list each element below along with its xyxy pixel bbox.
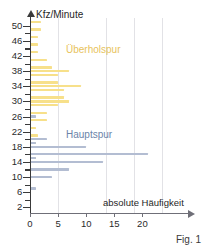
bar-ueberholspur-39 (30, 66, 52, 68)
y-tick-22 (23, 132, 30, 133)
x-tick-0 (30, 213, 31, 217)
bar-ueberholspur-51 (30, 21, 41, 23)
y-tick-label-30: 30 (12, 95, 22, 106)
series-label-hauptspur: Hauptspur (66, 129, 112, 140)
y-tick-14 (23, 162, 30, 163)
figure-caption: Fig. 1 (176, 234, 201, 245)
bar-ueberholspur-37 (30, 74, 58, 76)
y-tick-28 (25, 109, 30, 110)
bar-ueberholspur-41 (30, 59, 47, 61)
y-tick-label-10: 10 (12, 171, 22, 182)
y-tick-6 (23, 192, 30, 193)
y-tick-label-26: 26 (12, 111, 22, 122)
y-tick-18 (23, 147, 30, 148)
y-tick-4 (25, 200, 30, 201)
y-tick-20 (25, 139, 30, 140)
bar-hauptspur-10 (30, 176, 52, 178)
y-tick-8 (25, 185, 30, 186)
x-tick-label-20: 20 (137, 218, 148, 229)
y-tick-46 (23, 41, 30, 42)
bar-ueberholspur-34 (30, 85, 81, 87)
bar-hauptspur-16 (30, 153, 148, 155)
bar-hauptspur-14 (30, 161, 103, 163)
y-tick-12 (25, 169, 30, 170)
y-tick-label-50: 50 (12, 20, 22, 31)
bar-ueberholspur-45 (30, 43, 38, 45)
y-axis-title: Kfz/Minute (36, 9, 83, 20)
y-tick-10 (23, 177, 30, 178)
y-tick-50 (23, 26, 30, 27)
bar-ueberholspur-33 (30, 89, 64, 91)
bar-ueberholspur-21 (30, 134, 38, 136)
y-axis-arrow-icon (27, 10, 35, 17)
y-tick-label-38: 38 (12, 65, 22, 76)
y-tick-42 (23, 56, 30, 57)
y-tick-30 (23, 101, 30, 102)
plot-area: 261014182226303438424650 05101520 Kfz/Mi… (0, 0, 205, 248)
gridline-x-15 (134, 18, 135, 213)
bar-ueberholspur-31 (30, 96, 64, 98)
bar-ueberholspur-47 (30, 36, 38, 38)
y-tick-2 (23, 207, 30, 208)
y-tick-label-6: 6 (17, 186, 22, 197)
bar-hauptspur-20 (30, 138, 47, 140)
bar-hauptspur-18 (30, 146, 86, 148)
y-tick-label-42: 42 (12, 50, 22, 61)
y-tick-label-2: 2 (17, 201, 22, 212)
y-tick-label-22: 22 (12, 126, 22, 137)
bar-ueberholspur-35 (30, 81, 58, 83)
chart-figure: 261014182226303438424650 05101520 Kfz/Mi… (0, 0, 205, 248)
bar-ueberholspur-49 (30, 28, 41, 30)
y-tick-label-14: 14 (12, 156, 22, 167)
bar-ueberholspur-38 (30, 70, 69, 72)
y-tick-36 (25, 79, 30, 80)
bar-hauptspur-12 (30, 168, 69, 170)
x-tick-label-5: 5 (55, 218, 60, 229)
x-tick-label-15: 15 (109, 218, 120, 229)
y-tick-38 (23, 71, 30, 72)
y-tick-label-18: 18 (12, 141, 22, 152)
y-tick-40 (25, 64, 30, 65)
x-tick-20 (142, 213, 143, 217)
bar-ueberholspur-43 (30, 51, 38, 53)
x-tick-5 (58, 213, 59, 217)
x-axis-title: absolute Häufigkeit (103, 197, 184, 208)
y-tick-32 (25, 94, 30, 95)
y-axis-line (30, 16, 31, 214)
x-tick-label-10: 10 (81, 218, 92, 229)
y-tick-44 (25, 48, 30, 49)
bar-ueberholspur-29 (30, 104, 58, 106)
gridline-x-20 (162, 18, 163, 213)
y-tick-label-46: 46 (12, 35, 22, 46)
x-tick-10 (86, 213, 87, 217)
x-axis-arrow-icon (188, 210, 195, 218)
x-tick-15 (114, 213, 115, 217)
x-tick-label-0: 0 (27, 218, 32, 229)
bar-ueberholspur-27 (30, 112, 47, 114)
bar-ueberholspur-25 (30, 119, 47, 121)
y-tick-label-34: 34 (12, 80, 22, 91)
series-label-ueberholspur: Überholspur (66, 44, 120, 55)
y-tick-26 (23, 117, 30, 118)
x-axis-line (30, 213, 189, 214)
y-tick-24 (25, 124, 30, 125)
y-tick-48 (25, 33, 30, 34)
y-tick-34 (23, 86, 30, 87)
y-tick-16 (25, 154, 30, 155)
gridline-x-5 (58, 18, 59, 213)
bar-ueberholspur-30 (30, 100, 69, 102)
